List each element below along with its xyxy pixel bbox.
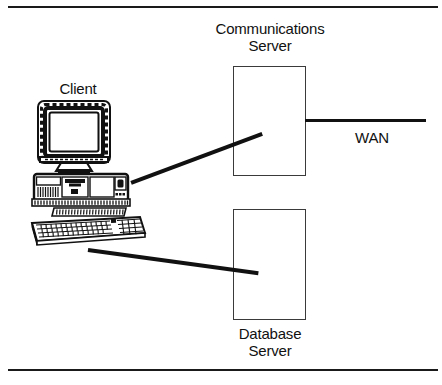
- crt-monitor-icon: [38, 101, 110, 163]
- monitor-stand-icon: [56, 163, 92, 173]
- communications-server-label: Communications Server: [180, 20, 360, 54]
- communications-server-box: [233, 66, 306, 176]
- network-diagram-figure: Communications Server WAN Database Serve…: [0, 0, 442, 385]
- keyboard-icon: [32, 208, 145, 245]
- communications-server-to-wan-link: [305, 119, 426, 122]
- client-label: Client: [28, 80, 128, 97]
- database-server-box: [233, 209, 306, 320]
- figure-bottom-rule: [8, 369, 438, 371]
- system-unit-icon: [32, 174, 130, 206]
- database-server-label: Database Server: [180, 325, 360, 359]
- wan-label: WAN: [355, 129, 425, 146]
- desktop-computer-icon: [14, 99, 156, 249]
- figure-top-rule: [8, 6, 438, 8]
